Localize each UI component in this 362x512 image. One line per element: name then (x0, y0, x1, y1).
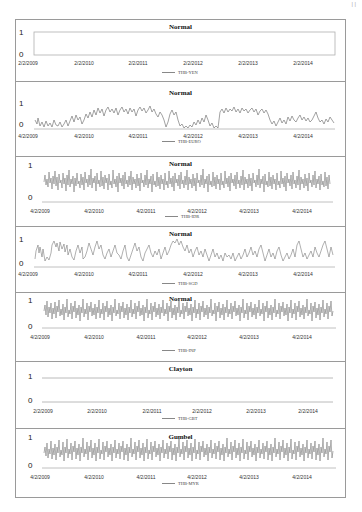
x-tick: 4/2/2010 (84, 474, 103, 480)
x-tick: 4/2/2011 (128, 133, 147, 139)
legend-label: THB-YEN (178, 70, 198, 75)
x-tick: 4/2/2014 (292, 208, 311, 214)
legend-label: THB-INP (178, 348, 196, 353)
x-tick: 4/2/2014 (293, 133, 312, 139)
legend-line-icon (162, 72, 175, 73)
x-tick: 2/2/2011 (128, 60, 147, 66)
x-tick: 2/2/2009 (18, 60, 37, 66)
legend: THB-SGD (162, 281, 198, 286)
chart-stack: Normal 1 0 2/2/2009 2/2/2010 2/2/2011 2/… (15, 19, 346, 498)
legend-line-icon (162, 350, 175, 351)
legend-line-icon (165, 216, 178, 217)
x-tick: 4/2/2014 (293, 271, 312, 277)
x-tick: 4/2/2011 (136, 474, 155, 480)
x-tick: 4/2/2009 (30, 474, 49, 480)
x-tick: 4/2/2010 (84, 334, 103, 340)
x-tick: 2/2/2010 (74, 60, 93, 66)
x-tick: 4/2/2014 (292, 334, 311, 340)
chart-panel-idr: Normal 1 0 4/2/2009 4/2/2010 4/2/2011 4/… (15, 157, 346, 227)
x-tick: 4/2/2012 (187, 334, 206, 340)
x-tick: 2/2/2009 (33, 408, 52, 414)
chart-panel-euro: Normal 1 0 4/2/2009 4/2/2010 4/2/2011 4/… (15, 82, 346, 157)
chart-panel-gbt: Clayton 1 0 2/2/2009 2/2/2010 2/2/2011 2… (15, 362, 346, 429)
x-tick: 4/2/2010 (84, 208, 103, 214)
x-tick: 2/2/2013 (246, 408, 265, 414)
x-tick: 4/2/2012 (187, 474, 206, 480)
x-tick: 4/2/2014 (292, 474, 311, 480)
chart-panel-inp: Normal 1 0 4/2/2009 4/2/2010 4/2/2011 4/… (15, 293, 346, 362)
legend: THB-YEN (162, 70, 198, 75)
page-marker: | | (351, 0, 356, 8)
x-tick: 4/2/2009 (18, 271, 37, 277)
plot-area (16, 82, 347, 157)
legend: THB-MYR (162, 481, 199, 486)
legend-line-icon (162, 283, 175, 284)
x-tick: 4/2/2012 (183, 271, 202, 277)
legend-line-icon (162, 418, 175, 419)
chart-panel-yen: Normal 1 0 2/2/2009 2/2/2010 2/2/2011 2/… (15, 19, 346, 82)
x-tick: 2/2/2014 (293, 60, 312, 66)
legend-line-icon (162, 483, 175, 484)
x-tick: 4/2/2013 (238, 271, 257, 277)
legend-label: THB-SGD (178, 281, 198, 286)
x-tick: 4/2/2010 (74, 271, 93, 277)
x-tick: 4/2/2010 (74, 133, 93, 139)
x-tick: 2/2/2012 (183, 60, 202, 66)
legend: THB-GBT (162, 416, 198, 421)
x-tick: 4/2/2011 (136, 208, 155, 214)
x-tick: 4/2/2009 (18, 133, 37, 139)
x-tick: 2/2/2013 (238, 60, 257, 66)
legend: THB-INP (162, 348, 196, 353)
legend: THB-EURO (162, 139, 201, 144)
x-tick: 2/2/2010 (87, 408, 106, 414)
legend: THB-IDR (165, 214, 199, 219)
chart-panel-myr: Gumbel 1 0 4/2/2009 4/2/2010 4/2/2011 4/… (15, 429, 346, 498)
legend-label: THB-MYR (178, 481, 199, 486)
x-tick: 4/2/2013 (238, 133, 257, 139)
legend-label: THB-EURO (178, 139, 201, 144)
x-tick: 4/2/2013 (239, 208, 258, 214)
x-tick: 4/2/2009 (30, 334, 49, 340)
plot-area (16, 429, 347, 498)
x-tick: 4/2/2011 (136, 334, 155, 340)
x-tick: 4/2/2009 (30, 208, 49, 214)
legend-label: THB-GBT (178, 416, 198, 421)
x-tick: 2/2/2012 (192, 408, 211, 414)
x-tick: 2/2/2014 (298, 408, 317, 414)
x-tick: 4/2/2013 (239, 474, 258, 480)
chart-panel-sgd: Normal 1 0 4/2/2009 4/2/2010 4/2/2011 4/… (15, 227, 346, 293)
x-tick: 2/2/2011 (142, 408, 161, 414)
x-tick: 4/2/2011 (128, 271, 147, 277)
legend-label: THB-IDR (181, 214, 199, 219)
x-tick: 4/2/2013 (239, 334, 258, 340)
legend-line-icon (162, 141, 175, 142)
